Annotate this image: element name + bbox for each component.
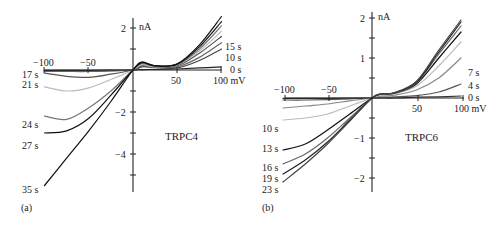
panel-a-trpc4: −100 −50 50 100 mV 2 −2 −4 nA 17 s 21 s … bbox=[21, 17, 246, 215]
trace-label: 10 s bbox=[262, 123, 279, 134]
trace-label: 19 s bbox=[262, 173, 279, 184]
y-tick-label: 2 bbox=[121, 23, 126, 34]
figure: −100 −50 50 100 mV 2 −2 −4 nA 17 s 21 s … bbox=[0, 0, 504, 225]
x-tick-label: −100 bbox=[33, 57, 54, 68]
trace-label: 27 s bbox=[22, 140, 39, 151]
trace-label: 35 s bbox=[22, 184, 39, 195]
y-tick-label: −2 bbox=[115, 107, 126, 118]
trace-label: 10 s bbox=[225, 52, 242, 63]
x-tick-label: −50 bbox=[321, 84, 337, 95]
x-tick-label: −50 bbox=[80, 57, 96, 68]
trace-label: 4 s bbox=[468, 80, 480, 91]
trace-label: 13 s bbox=[262, 143, 279, 154]
y-tick-label: 2 bbox=[360, 13, 365, 24]
trace-label: 15 s bbox=[225, 41, 242, 52]
panel-title: TRPC4 bbox=[165, 130, 199, 142]
trace-label: 21 s bbox=[22, 79, 39, 90]
trace-label: 24 s bbox=[22, 119, 39, 130]
x-tick-label: −100 bbox=[274, 84, 295, 95]
trace-label: 0 s bbox=[230, 64, 242, 75]
x-unit-label: 100 mV bbox=[213, 75, 246, 86]
y-tick-label: −4 bbox=[115, 149, 126, 160]
y-tick-label: −2 bbox=[354, 173, 365, 184]
x-tick-label: 50 bbox=[412, 103, 422, 114]
y-tick-label: 1 bbox=[360, 53, 365, 64]
y-unit-label: nA bbox=[139, 21, 152, 32]
trace-label: 0 s bbox=[468, 92, 480, 103]
x-unit-label: 100 mV bbox=[454, 103, 487, 114]
panel-letter: (b) bbox=[262, 202, 274, 214]
trace-label: 7 s bbox=[468, 67, 480, 78]
y-tick-label: −1 bbox=[354, 133, 365, 144]
panel-title: TRPC6 bbox=[405, 131, 439, 143]
trace-label: 23 s bbox=[262, 184, 279, 195]
y-unit-label: nA bbox=[378, 11, 391, 22]
trace-label: 16 s bbox=[262, 162, 279, 173]
panel-b-trpc6: −100 −50 50 100 mV 2 1 −1 −2 nA 10 s 13 … bbox=[262, 11, 487, 214]
panel-letter: (a) bbox=[21, 202, 32, 214]
x-tick-label: 50 bbox=[171, 75, 181, 86]
